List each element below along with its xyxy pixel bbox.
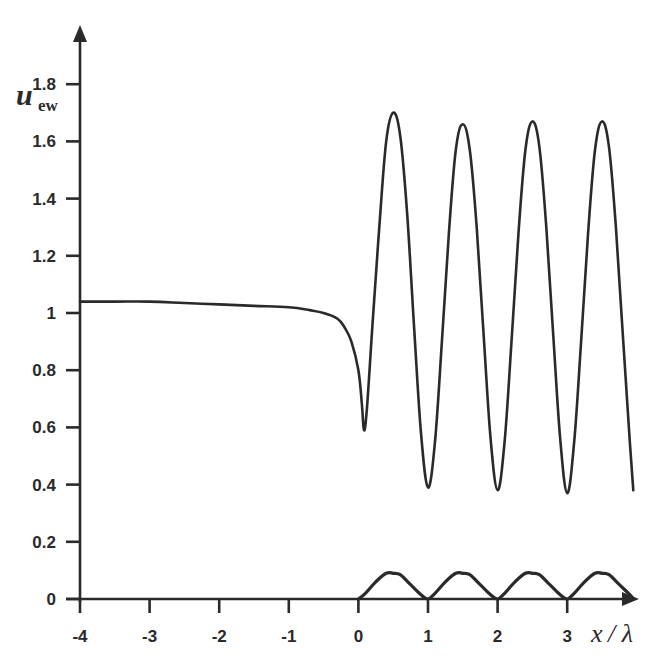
x-tick-label: -1 (281, 627, 296, 646)
y-tick-label: 0.6 (32, 418, 56, 437)
chart: 00.20.40.60.811.21.41.61.8 -4-3-2-10123 … (0, 0, 664, 663)
x-tick-label: -4 (72, 627, 88, 646)
x-axis-label-rest: / λ (606, 619, 633, 648)
upper-curve-line (80, 113, 633, 494)
x-tick-label: 1 (423, 627, 432, 646)
y-axis-arrow-icon (73, 25, 87, 42)
lower-curve-line (358, 573, 633, 600)
x-tick-label: 2 (493, 627, 502, 646)
y-tick-label: 1.6 (32, 132, 56, 151)
x-axis-label-var: x (590, 619, 603, 648)
y-tick-label: 0.4 (32, 476, 56, 495)
x-tick-label: 3 (562, 627, 571, 646)
y-tick-label: 0.2 (32, 533, 56, 552)
y-axis-label-subscript: ew (38, 96, 59, 115)
y-tick-label: 1.4 (32, 190, 56, 209)
x-tick-label: -2 (212, 627, 227, 646)
y-tick-label: 1 (47, 304, 56, 323)
x-tick-label: 0 (354, 627, 363, 646)
y-tick-label: 1.8 (32, 75, 56, 94)
y-axis-label-main: u (16, 78, 33, 111)
x-tick-label: -3 (142, 627, 157, 646)
y-tick-label: 1.2 (32, 247, 56, 266)
plot-area (80, 113, 633, 599)
y-tick-label: 0.8 (32, 361, 56, 380)
x-axis: -4-3-2-10123 (66, 592, 639, 646)
y-tick-label: 0 (47, 590, 56, 609)
